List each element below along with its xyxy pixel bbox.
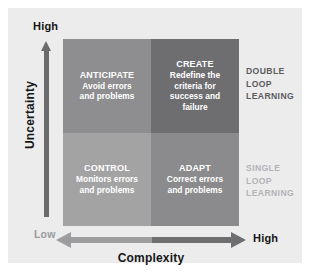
quadrant-body-line: and problems [80, 185, 135, 195]
arrow-shaft-left [70, 237, 153, 243]
quadrant-body-line: Redefine the [170, 70, 220, 80]
legend-line: LOOP [246, 78, 294, 91]
arrow-right-icon [231, 232, 246, 248]
uncertainty-axis-arrow [41, 41, 51, 217]
arrow-shaft [44, 49, 49, 217]
quadrant-control[interactable]: CONTROL Monitors errors and problems [63, 133, 151, 227]
quadrant-title: ANTICIPATE [80, 70, 135, 81]
quadrant-body-line: Monitors errors [76, 174, 138, 184]
quadrant-body-line: failure [182, 102, 207, 112]
quadrant-body-line: Correct errors [167, 174, 223, 184]
legend-single-loop-learning: SINGLE LOOP LEARNING [246, 162, 294, 200]
arrow-shaft-right [152, 237, 232, 243]
quadrant-matrix: ANTICIPATE Avoid errors and problems CRE… [63, 39, 239, 226]
legend-line: DOUBLE [246, 65, 294, 78]
x-axis-title: Complexity [63, 251, 239, 265]
legend-line: SINGLE [246, 162, 294, 175]
quadrant-title: CONTROL [84, 163, 130, 174]
quadrant-body-line: success and [170, 91, 220, 101]
quadrant-title: CREATE [176, 59, 214, 70]
quadrant-create[interactable]: CREATE Redefine the criteria for success… [151, 39, 239, 133]
legend-line: LEARNING [246, 187, 294, 200]
legend-double-loop-learning: DOUBLE LOOP LEARNING [246, 65, 294, 103]
quadrant-adapt[interactable]: ADAPT Correct errors and problems [151, 133, 239, 227]
y-axis-low-label: Low [34, 228, 56, 240]
quadrant-body-line: and problems [80, 91, 135, 101]
quadrant-title: ADAPT [179, 163, 211, 174]
x-axis-high-label: High [253, 232, 278, 244]
quadrant-anticipate[interactable]: ANTICIPATE Avoid errors and problems [63, 39, 151, 133]
quadrant-body-line: criteria for [174, 81, 215, 91]
quadrant-body-line: Avoid errors [82, 81, 132, 91]
arrow-left-icon [56, 232, 71, 248]
legend-line: LEARNING [246, 90, 294, 103]
legend-line: LOOP [246, 175, 294, 188]
quadrant-body-line: and problems [168, 185, 223, 195]
y-axis-title: Uncertainty [23, 60, 37, 170]
diagram-canvas: High Low Uncertainty ANTICIPATE Avoid er… [0, 0, 310, 271]
diagram-panel: High Low Uncertainty ANTICIPATE Avoid er… [8, 8, 302, 263]
y-axis-high-label: High [33, 20, 58, 32]
complexity-axis-arrow [56, 232, 246, 248]
